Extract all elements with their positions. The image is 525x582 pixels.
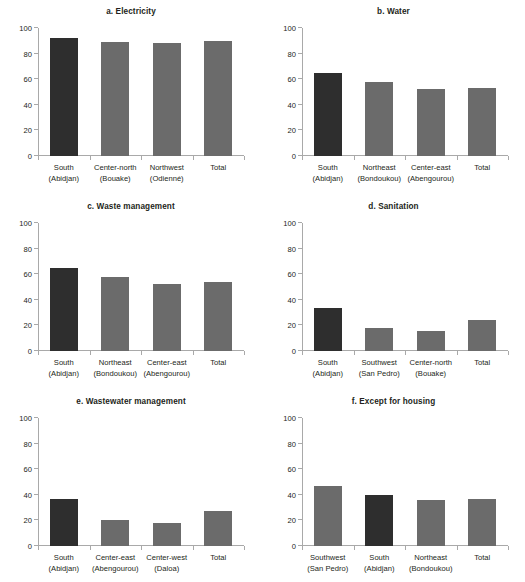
panel-title: f. Except for housing xyxy=(262,397,525,406)
panel-e-wastewater-management: e. Wastewater management 020406080100 So… xyxy=(0,390,262,582)
x-axis-tick xyxy=(508,546,509,550)
bar xyxy=(101,277,129,351)
panel-title: d. Sanitation xyxy=(262,202,525,211)
y-axis-tick-label: 20 xyxy=(288,516,296,525)
x-axis-tick xyxy=(354,156,355,160)
y-axis-tick xyxy=(298,78,302,79)
bar-category xyxy=(38,223,90,351)
x-axis-tick xyxy=(193,156,194,160)
y-axis-tick-label: 100 xyxy=(283,24,296,33)
x-axis-category-label: Center-east(Abengourou) xyxy=(90,552,142,574)
x-axis-tick xyxy=(354,351,355,355)
y-axis-tick xyxy=(298,222,302,223)
x-axis-category-label: Center-north(Bouake) xyxy=(405,357,457,379)
x-axis-tick xyxy=(405,351,406,355)
bars-group xyxy=(302,418,508,546)
bars-group xyxy=(302,28,508,156)
x-axis-tick xyxy=(193,546,194,550)
bar xyxy=(204,41,232,156)
x-axis-tick xyxy=(38,546,39,550)
x-axis-tick xyxy=(457,156,458,160)
bar xyxy=(365,328,393,351)
x-axis-category-label: Total xyxy=(193,162,245,184)
bar xyxy=(204,282,232,351)
y-axis-tick-label: 80 xyxy=(288,244,296,253)
x-axis-labels: South(Abidjan)Northeast(Bondoukou)Center… xyxy=(38,357,244,379)
y-axis-tick-label: 80 xyxy=(288,49,296,58)
bar-category xyxy=(141,223,193,351)
y-axis-tick xyxy=(298,417,302,418)
panel-title: c. Waste management xyxy=(0,202,262,211)
bar xyxy=(101,520,129,546)
x-axis-tick xyxy=(354,546,355,550)
y-axis-tick-label: 0 xyxy=(28,347,32,356)
y-axis-tick xyxy=(298,299,302,300)
plot-area: 020406080100 xyxy=(38,28,244,156)
y-axis-tick xyxy=(298,53,302,54)
y-axis-tick xyxy=(298,519,302,520)
y-axis-tick xyxy=(34,129,38,130)
bars-group xyxy=(38,223,244,351)
x-axis-tick xyxy=(302,156,303,160)
y-axis-tick xyxy=(298,443,302,444)
x-axis-category-label: Northwest(Odienné) xyxy=(141,162,193,184)
y-axis-tick-label: 60 xyxy=(288,75,296,84)
plot-area: 020406080100 xyxy=(38,223,244,351)
panel-c-waste-management: c. Waste management 020406080100 South(A… xyxy=(0,195,262,390)
y-axis-tick-label: 20 xyxy=(24,126,32,135)
x-axis-tick xyxy=(302,351,303,355)
y-axis-tick-label: 100 xyxy=(283,414,296,423)
plot-area: 020406080100 xyxy=(302,223,508,351)
x-axis-category-label: Northeast(Bondoukou) xyxy=(405,552,457,574)
x-axis-category-label: South(Abidjan) xyxy=(38,552,90,574)
y-axis-tick-label: 40 xyxy=(24,490,32,499)
panel-title: a. Electricity xyxy=(0,7,262,16)
y-axis-tick-label: 0 xyxy=(28,152,32,161)
x-axis-category-label: Center-east(Abengourou) xyxy=(405,162,457,184)
y-axis-tick xyxy=(34,417,38,418)
y-axis-tick-label: 20 xyxy=(24,516,32,525)
y-axis-tick-label: 100 xyxy=(283,219,296,228)
y-axis-tick xyxy=(298,27,302,28)
y-axis-tick-label: 40 xyxy=(288,100,296,109)
y-axis-tick xyxy=(34,78,38,79)
panel-b-water: b. Water 020406080100 South(Abidjan)Nort… xyxy=(262,0,525,195)
y-axis-tick xyxy=(298,468,302,469)
bar-category xyxy=(90,418,142,546)
bar-category xyxy=(90,28,142,156)
bar xyxy=(468,320,496,351)
y-axis-tick-label: 20 xyxy=(288,321,296,330)
bar-category xyxy=(90,223,142,351)
x-axis-tick xyxy=(38,156,39,160)
y-axis-tick-label: 100 xyxy=(19,24,32,33)
bar-category xyxy=(193,418,245,546)
bar-category xyxy=(141,28,193,156)
panel-title: b. Water xyxy=(262,7,525,16)
y-axis-tick xyxy=(298,129,302,130)
y-axis-tick-label: 40 xyxy=(24,100,32,109)
bar-category xyxy=(354,28,406,156)
x-axis-labels: South(Abidjan)Southwest(San Pedro)Center… xyxy=(302,357,508,379)
x-axis-labels: South(Abidjan)Center-east(Abengourou)Cen… xyxy=(38,552,244,574)
x-axis-category-label: Center-north(Bouake) xyxy=(90,162,142,184)
bar xyxy=(204,511,232,546)
y-axis-tick-label: 40 xyxy=(288,490,296,499)
x-axis-category-label: South(Abidjan) xyxy=(302,162,354,184)
bar-category xyxy=(141,418,193,546)
x-axis-tick xyxy=(90,351,91,355)
multi-panel-bar-chart-figure: a. Electricity 020406080100 South(Abidja… xyxy=(0,0,525,582)
y-axis-tick-label: 20 xyxy=(24,321,32,330)
y-axis-tick-label: 60 xyxy=(24,75,32,84)
x-axis-category-label: Southwest(San Pedro) xyxy=(302,552,354,574)
x-axis-tick xyxy=(508,351,509,355)
x-axis-tick xyxy=(141,156,142,160)
plot-area: 020406080100 xyxy=(38,418,244,546)
y-axis-tick xyxy=(34,468,38,469)
y-axis-tick xyxy=(34,53,38,54)
y-axis-tick-label: 40 xyxy=(288,295,296,304)
x-axis-tick xyxy=(244,546,245,550)
bar xyxy=(50,38,78,156)
x-axis-tick xyxy=(302,546,303,550)
x-axis-category-label: Center-east(Abengourou) xyxy=(141,357,193,379)
y-axis-tick-label: 60 xyxy=(24,270,32,279)
